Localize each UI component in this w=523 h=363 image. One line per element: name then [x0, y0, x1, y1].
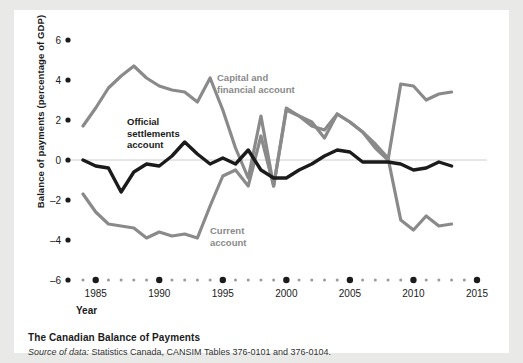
caption-source-text: Statistics Canada, CANSIM Tables 376-010…: [89, 347, 331, 357]
series-label-current-account: Current account: [210, 225, 246, 248]
caption-block: The Canadian Balance of Payments Source …: [28, 332, 498, 357]
x-axis-title: Year: [76, 305, 97, 316]
caption-title: The Canadian Balance of Payments: [28, 332, 498, 343]
y-axis-tick-dot: [65, 37, 70, 42]
x-axis-tick-dot: [220, 277, 226, 283]
figure-container: Balance of payments (percentage of GDP) …: [14, 10, 509, 353]
official-label-line-3: account: [127, 139, 163, 150]
x-axis-minor-tick-dot: [234, 279, 237, 282]
x-axis-tick-label: 2000: [275, 288, 298, 299]
x-axis-tick-label: 2015: [466, 288, 489, 299]
x-axis-minor-tick-dot: [361, 279, 364, 282]
y-axis-tick-dot: [65, 277, 70, 282]
y-axis-tick-dot: [65, 77, 70, 82]
capital-label-line-1: Capital and: [217, 72, 268, 83]
x-axis-minor-tick-dot: [450, 279, 453, 282]
plot-area: Balance of payments (percentage of GDP) …: [14, 10, 509, 310]
y-axis-title: Balance of payments (percentage of GDP): [35, 2, 46, 222]
x-axis-minor-tick-dot: [425, 279, 428, 282]
x-axis-tick-label: 1995: [212, 288, 235, 299]
x-axis-minor-tick-dot: [209, 279, 212, 282]
x-axis-minor-tick-dot: [145, 279, 148, 282]
y-axis-tick-label: 2: [55, 115, 61, 126]
x-axis-tick-label: 2010: [402, 288, 425, 299]
current-label-line-2: account: [210, 237, 246, 248]
official-label-line-2: settlements: [127, 128, 180, 139]
x-axis-minor-tick-dot: [374, 279, 377, 282]
y-axis-tick-label: –2: [50, 195, 62, 206]
y-axis-tick-label: 4: [55, 75, 61, 86]
y-axis-tick-dot: [65, 197, 70, 202]
current-label-line-1: Current: [210, 225, 244, 236]
y-axis-tick-label: 0: [55, 155, 61, 166]
x-axis-tick-dot: [283, 277, 289, 283]
x-axis-minor-tick-dot: [170, 279, 173, 282]
x-axis-minor-tick-dot: [120, 279, 123, 282]
x-axis-minor-tick-dot: [437, 279, 440, 282]
x-axis-minor-tick-dot: [82, 279, 85, 282]
y-axis-tick-dot: [65, 237, 70, 242]
x-axis-minor-tick-dot: [310, 279, 313, 282]
x-axis-minor-tick-dot: [259, 279, 262, 282]
series-label-official-settlements-account: Official settlements account: [127, 116, 180, 151]
x-axis-tick-dot: [93, 277, 99, 283]
x-axis-tick-dot: [410, 277, 416, 283]
capital-label-line-2: financial account: [217, 84, 295, 95]
x-axis-minor-tick-dot: [132, 279, 135, 282]
y-axis-tick-dot: [65, 157, 70, 162]
x-axis-minor-tick-dot: [399, 279, 402, 282]
y-axis-tick-label: –6: [50, 275, 62, 286]
x-axis-tick-dot: [156, 277, 162, 283]
official-label-line-1: Official: [127, 116, 159, 127]
caption-source-prefix: Source of data:: [28, 347, 89, 357]
x-axis-minor-tick-dot: [387, 279, 390, 282]
x-axis-tick-label: 2005: [339, 288, 362, 299]
x-axis-minor-tick-dot: [272, 279, 275, 282]
x-axis-minor-tick-dot: [183, 279, 186, 282]
x-axis-minor-tick-dot: [247, 279, 250, 282]
x-axis-minor-tick-dot: [107, 279, 110, 282]
x-axis-minor-tick-dot: [196, 279, 199, 282]
y-axis-tick-label: –4: [50, 235, 62, 246]
x-axis-minor-tick-dot: [336, 279, 339, 282]
x-axis-tick-label: 1990: [148, 288, 171, 299]
series-label-capital-financial-account: Capital and financial account: [217, 72, 295, 95]
x-axis-minor-tick-dot: [463, 279, 466, 282]
caption-source: Source of data: Statistics Canada, CANSI…: [28, 347, 498, 357]
y-axis-tick-label: 6: [55, 35, 61, 46]
x-axis-tick-label: 1985: [85, 288, 108, 299]
x-axis-tick-dot: [474, 277, 480, 283]
line-chart: 6420–2–4–61985199019952000200520102015: [14, 10, 509, 310]
x-axis-minor-tick-dot: [298, 279, 301, 282]
x-axis-tick-dot: [347, 277, 353, 283]
x-axis-minor-tick-dot: [323, 279, 326, 282]
y-axis-tick-dot: [65, 117, 70, 122]
